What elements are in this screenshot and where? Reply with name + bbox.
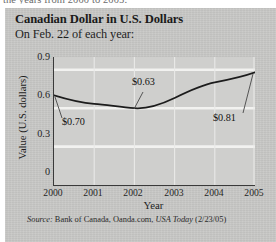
source-publication: USA Today (156, 215, 193, 224)
source-date: (2/23/05) (195, 215, 226, 224)
annotation-0-63: $0.63 (132, 76, 155, 87)
annotation-0-81: $0.81 (213, 112, 236, 123)
source-note: Source: Bank of Canada, Oanda.com, USA T… (27, 215, 226, 224)
chart-figure: the years from 2000 to 2005. Canadian Do… (0, 0, 276, 242)
source-body: Bank of Canada, Oanda.com, (55, 215, 154, 224)
annotation-0-70: $0.70 (62, 116, 85, 127)
source-prefix: Source: (27, 215, 53, 224)
